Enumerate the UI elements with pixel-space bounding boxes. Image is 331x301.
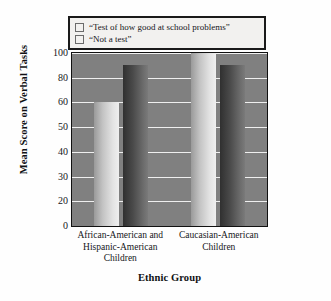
x-axis-tick-group-2: Caucasian-AmericanChildren bbox=[170, 230, 269, 272]
bar-group-1-series-1 bbox=[94, 102, 119, 226]
bar-group-2-series-1 bbox=[191, 53, 216, 226]
x-axis-tick-line: Children bbox=[71, 253, 170, 265]
x-axis-tick-line: Children bbox=[170, 242, 269, 254]
bar-chart-figure: “Test of how good at school problems” “N… bbox=[0, 0, 331, 301]
y-axis-tick-80: 80 bbox=[42, 73, 68, 83]
y-axis-tick-40: 40 bbox=[42, 147, 68, 157]
legend-label-series-2: “Not a test” bbox=[89, 34, 131, 45]
y-axis-tick-20: 20 bbox=[42, 196, 68, 206]
y-axis-tick-50: 50 bbox=[42, 122, 68, 132]
y-axis-tick-100: 100 bbox=[42, 48, 68, 58]
bar-group-1-series-2 bbox=[123, 65, 148, 226]
x-axis-tick-line: African-American and bbox=[71, 230, 170, 242]
y-axis-title: Mean Score on Verbal Tasks bbox=[18, 40, 29, 180]
legend-item-test-of-how-good: “Test of how good at school problems” bbox=[75, 21, 259, 33]
y-axis-tick-labels: 0203040506080100 bbox=[41, 52, 68, 227]
y-axis-tick-60: 60 bbox=[42, 97, 68, 107]
plot-inner bbox=[72, 53, 267, 226]
y-axis-tick-30: 30 bbox=[42, 172, 68, 182]
x-axis-tick-line: Hispanic-American bbox=[71, 242, 170, 254]
x-axis-tick-group-1: African-American andHispanic-AmericanChi… bbox=[71, 230, 170, 272]
legend-item-not-a-test: “Not a test” bbox=[75, 33, 259, 45]
gridline-100 bbox=[72, 53, 267, 54]
legend-swatch-dark-gray-icon bbox=[75, 35, 84, 44]
x-axis-tick-line: Caucasian-American bbox=[170, 230, 269, 242]
legend-swatch-light-gray-icon bbox=[75, 23, 84, 32]
bar-group-2-series-2 bbox=[220, 65, 245, 226]
x-axis-title: Ethnic Group bbox=[71, 272, 268, 283]
y-axis-tick-0: 0 bbox=[42, 221, 68, 231]
plot-area bbox=[71, 52, 268, 227]
chart-legend: “Test of how good at school problems” “N… bbox=[68, 16, 266, 50]
x-axis-tick-labels: African-American andHispanic-AmericanChi… bbox=[71, 230, 268, 272]
legend-label-series-1: “Test of how good at school problems” bbox=[89, 22, 230, 33]
